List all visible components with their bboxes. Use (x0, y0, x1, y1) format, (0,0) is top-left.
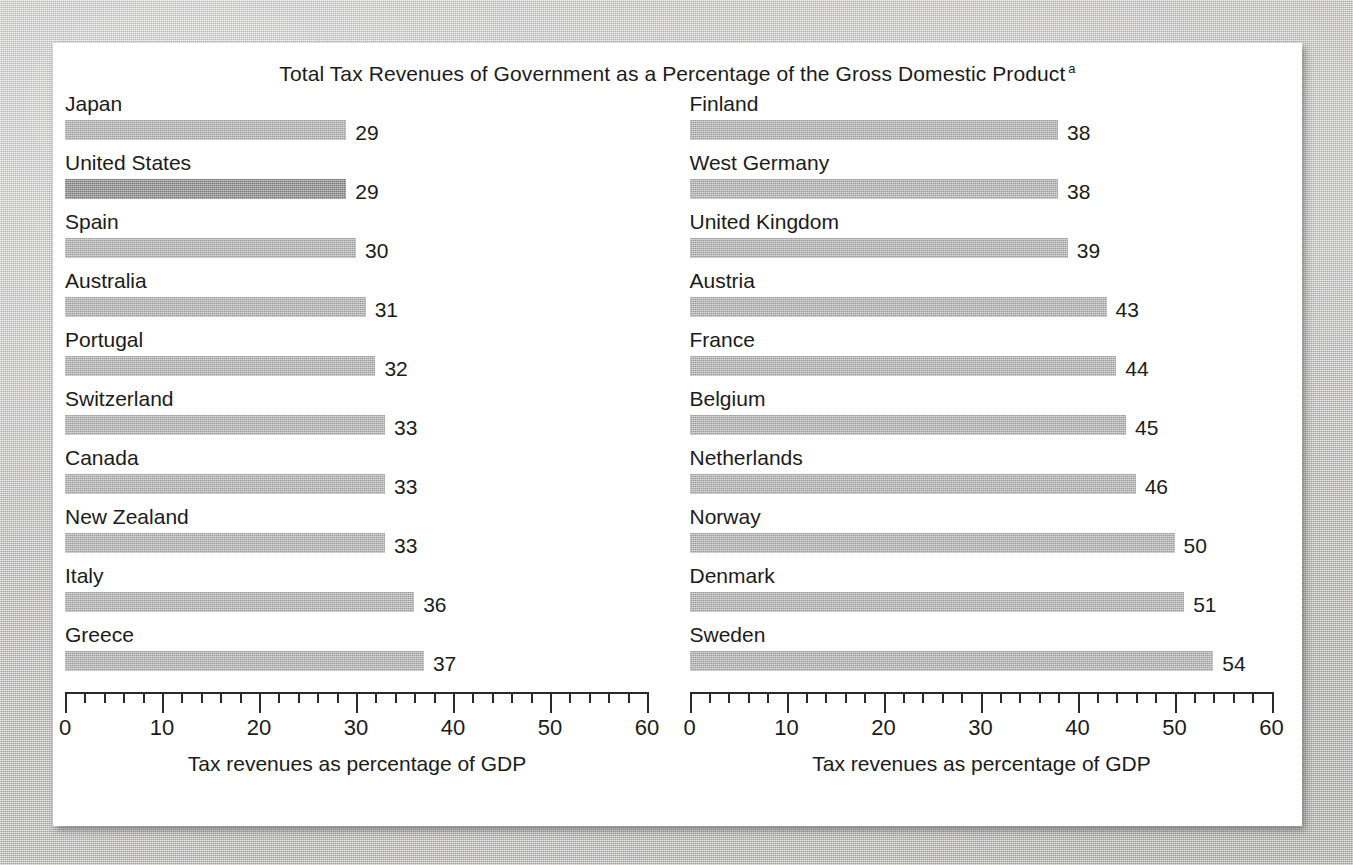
x-axis-minor-tick (143, 692, 145, 703)
bar-highlighted[interactable] (65, 179, 346, 199)
x-axis-minor-tick (748, 692, 750, 703)
bar[interactable] (65, 297, 366, 317)
bar[interactable] (65, 120, 346, 140)
bar-label: Japan (65, 91, 122, 117)
chart-panels: Japan29United States29Spain30Australia31… (53, 91, 1302, 826)
bar-value-label: 45 (1135, 416, 1158, 440)
bar[interactable] (690, 120, 1059, 140)
bar-row: Greece37 (53, 622, 678, 681)
x-axis-minor-tick (961, 692, 963, 703)
bar[interactable] (690, 592, 1185, 612)
chart-title-text: Total Tax Revenues of Government as a Pe… (279, 62, 1065, 85)
bar-row: United States29 (53, 150, 678, 209)
bar-value-label: 50 (1184, 534, 1207, 558)
x-axis-minor-tick (220, 692, 222, 703)
x-axis-minor-tick (845, 692, 847, 703)
bar[interactable] (65, 474, 385, 494)
bar-track: 54 (690, 651, 1293, 671)
x-axis-minor-tick (395, 692, 397, 703)
bar[interactable] (690, 179, 1059, 199)
x-axis-minor-tick (628, 692, 630, 703)
x-axis-minor-tick (864, 692, 866, 703)
x-axis-tick-label: 60 (635, 715, 659, 741)
bar-track: 45 (690, 415, 1293, 435)
x-axis-major-tick (162, 692, 164, 713)
x-axis-tick-label: 50 (1162, 715, 1186, 741)
bar-value-label: 44 (1125, 357, 1148, 381)
bar-value-label: 30 (365, 239, 388, 263)
bar-value-label: 38 (1067, 180, 1090, 204)
bar-track: 31 (65, 297, 668, 317)
bar[interactable] (65, 533, 385, 553)
bar-rows-right: Finland38West Germany38United Kingdom39A… (678, 91, 1303, 681)
chart-title-footnote-marker: a (1068, 61, 1075, 76)
bar-value-label: 39 (1077, 239, 1100, 263)
bar-label: United States (65, 150, 191, 176)
bar[interactable] (690, 297, 1107, 317)
x-axis-minor-tick (1097, 692, 1099, 703)
bar-row: United Kingdom39 (678, 209, 1303, 268)
x-axis-minor-tick (317, 692, 319, 703)
x-axis-minor-tick (942, 692, 944, 703)
bar-rows-left: Japan29United States29Spain30Australia31… (53, 91, 678, 681)
bar-value-label: 36 (423, 593, 446, 617)
bar[interactable] (65, 651, 424, 671)
x-axis-minor-tick (825, 692, 827, 703)
bar[interactable] (690, 415, 1127, 435)
bar-track: 50 (690, 533, 1293, 553)
bar-label: Belgium (690, 386, 766, 412)
x-axis-tick-label: 20 (871, 715, 895, 741)
x-axis-major-tick (1078, 692, 1080, 713)
bar-label: West Germany (690, 150, 830, 176)
x-axis-major-tick (65, 692, 67, 713)
bar-label: Greece (65, 622, 134, 648)
x-axis-tick-label: 40 (441, 715, 465, 741)
bar-track: 29 (65, 179, 668, 199)
x-axis-minor-tick (201, 692, 203, 703)
x-axis-minor-tick (298, 692, 300, 703)
bar[interactable] (690, 356, 1117, 376)
bar[interactable] (65, 238, 356, 258)
bar-row: Italy36 (53, 563, 678, 622)
x-axis-minor-tick (589, 692, 591, 703)
x-axis-major-tick (356, 692, 358, 713)
chart-title: Total Tax Revenues of Government as a Pe… (53, 61, 1302, 86)
bar-value-label: 32 (384, 357, 407, 381)
bar-track: 46 (690, 474, 1293, 494)
x-axis-minor-tick (608, 692, 610, 703)
bar-row: Canada33 (53, 445, 678, 504)
bar-track: 36 (65, 592, 668, 612)
bar[interactable] (690, 238, 1068, 258)
bar-row: Australia31 (53, 268, 678, 327)
x-axis-minor-tick (181, 692, 183, 703)
bar[interactable] (65, 415, 385, 435)
bar-label: Netherlands (690, 445, 803, 471)
bar[interactable] (690, 651, 1214, 671)
x-axis-minor-tick (472, 692, 474, 703)
bar-row: Norway50 (678, 504, 1303, 563)
bar-row: France44 (678, 327, 1303, 386)
x-axis-minor-tick (903, 692, 905, 703)
x-axis-minor-tick (1039, 692, 1041, 703)
x-axis-title-left: Tax revenues as percentage of GDP (65, 752, 649, 776)
bar-label: Sweden (690, 622, 766, 648)
bar-track: 51 (690, 592, 1293, 612)
bar[interactable] (65, 356, 375, 376)
x-axis-minor-tick (492, 692, 494, 703)
x-axis-minor-tick (1000, 692, 1002, 703)
bar-row: Finland38 (678, 91, 1303, 150)
bar-value-label: 51 (1193, 593, 1216, 617)
x-axis-tick-label: 50 (538, 715, 562, 741)
bar-value-label: 33 (394, 475, 417, 499)
x-axis-major-tick (550, 692, 552, 713)
bar-track: 38 (690, 120, 1293, 140)
bar[interactable] (65, 592, 414, 612)
bar[interactable] (690, 474, 1136, 494)
x-axis-tick-label: 30 (344, 715, 368, 741)
x-axis-major-tick (787, 692, 789, 713)
x-axis-minor-tick (1252, 692, 1254, 703)
x-axis-tick-label: 60 (1259, 715, 1283, 741)
bar-label: Portugal (65, 327, 143, 353)
bar-row: Netherlands46 (678, 445, 1303, 504)
bar[interactable] (690, 533, 1175, 553)
